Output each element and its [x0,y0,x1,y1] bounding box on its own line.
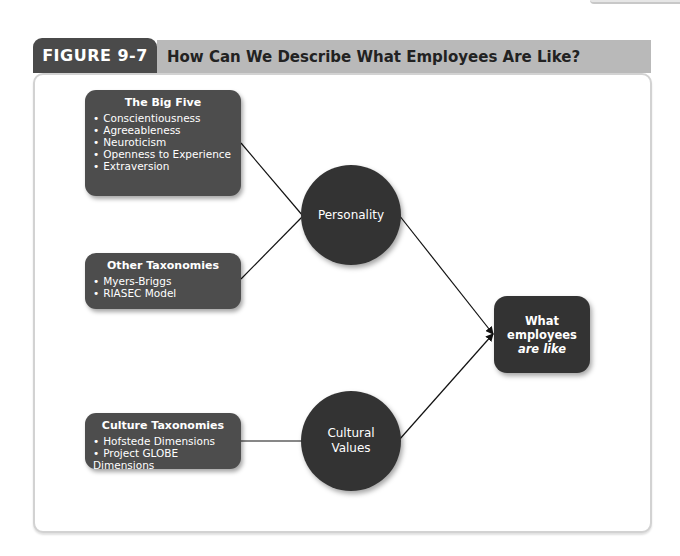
values-to-outcome-arrow [399,334,493,440]
list-item: Project GLOBE Dimensions [93,447,233,471]
other-taxonomies-list: Myers-Briggs RIASEC Model [93,275,233,299]
list-item: Conscientiousness [93,112,233,124]
bigfive-to-personality-line [241,143,303,216]
other-taxonomies-title: Other Taxonomies [93,260,233,272]
other-to-personality-line [241,216,303,279]
personality-to-outcome-arrow [399,215,493,334]
list-item: Agreeableness [93,124,233,136]
list-item: RIASEC Model [93,287,233,299]
list-item: Myers-Briggs [93,275,233,287]
list-item: Hofstede Dimensions [93,435,233,447]
culture-taxonomies-list: Hofstede Dimensions Project GLOBE Dimens… [93,435,233,471]
culture-taxonomies-box: Culture Taxonomies Hofstede Dimensions P… [85,413,241,469]
list-item: Openness to Experience [93,148,233,160]
outcome-label-2: employees [507,328,577,342]
outcome-label-3: are like [518,342,566,356]
big-five-box: The Big Five Conscientiousness Agreeable… [85,90,241,196]
culture-taxonomies-title: Culture Taxonomies [93,420,233,432]
big-five-title: The Big Five [93,97,233,109]
list-item: Neuroticism [93,136,233,148]
outcome-node: What employees are like [494,296,590,373]
outcome-label-1: What [525,314,559,328]
cultural-values-label-2: Values [327,441,374,456]
personality-label: Personality [318,208,384,223]
cultural-values-node: Cultural Values [301,391,401,491]
big-five-list: Conscientiousness Agreeableness Neurotic… [93,112,233,172]
cultural-values-label-1: Cultural [327,426,374,441]
personality-node: Personality [301,165,401,265]
other-taxonomies-box: Other Taxonomies Myers-Briggs RIASEC Mod… [85,253,241,309]
list-item: Extraversion [93,160,233,172]
